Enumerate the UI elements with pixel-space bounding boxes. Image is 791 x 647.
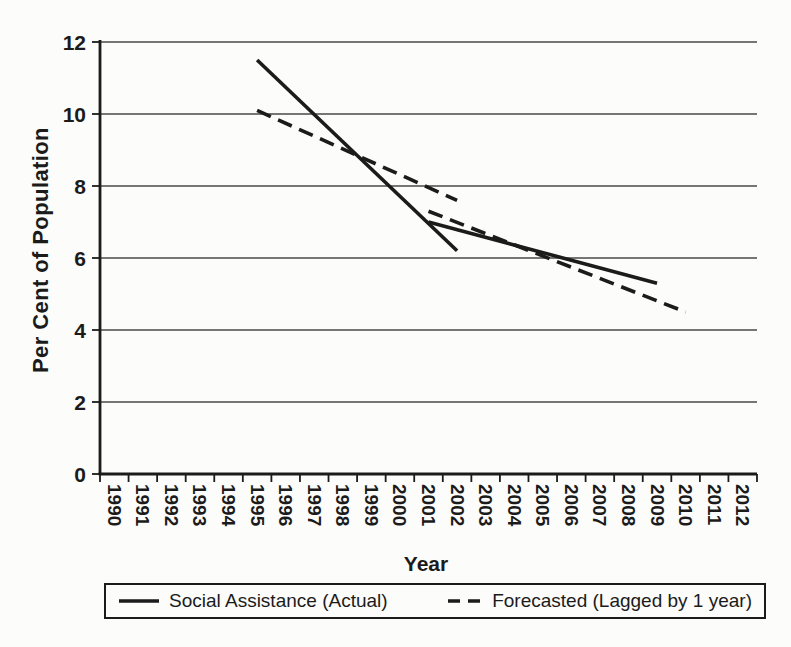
y-tick-label: 12	[63, 31, 86, 54]
x-tick-label: 2010	[675, 484, 696, 526]
x-tick-label: 2003	[475, 484, 496, 526]
y-axis-title: Per Cent of Population	[28, 127, 54, 373]
solid-line-icon	[118, 597, 160, 605]
scanned-line-chart-page: 0246810121990199119921993199419951996199…	[0, 0, 791, 647]
y-tick-label: 8	[74, 175, 86, 198]
x-tick-label: 1994	[218, 484, 239, 527]
x-tick-label: 1995	[247, 484, 268, 527]
legend-item-forecast: Forecasted (Lagged by 1 year)	[447, 590, 752, 612]
legend-item-actual: Social Assistance (Actual)	[118, 590, 388, 612]
y-tick-label: 2	[74, 391, 86, 414]
dashed-line-icon	[447, 597, 483, 605]
x-tick-label: 1997	[304, 484, 325, 526]
x-tick-label: 1998	[332, 484, 353, 526]
chart-legend: Social Assistance (Actual) Forecasted (L…	[104, 583, 766, 619]
x-tick-label: 2002	[447, 484, 468, 526]
legend-label-actual: Social Assistance (Actual)	[169, 590, 388, 612]
x-tick-label: 1991	[132, 484, 153, 527]
series-line-solid	[257, 60, 457, 251]
x-tick-label: 2005	[532, 484, 553, 527]
x-tick-label: 2011	[704, 484, 725, 526]
x-tick-label: 2000	[389, 484, 410, 526]
x-tick-label: 2007	[589, 484, 610, 526]
series-line-dashed	[429, 211, 686, 312]
x-tick-label: 2012	[732, 484, 753, 526]
x-tick-label: 2006	[561, 484, 582, 526]
y-tick-label: 6	[74, 247, 86, 270]
x-tick-label: 1996	[275, 484, 296, 526]
x-axis-title: Year	[404, 552, 448, 576]
legend-label-forecast: Forecasted (Lagged by 1 year)	[492, 590, 752, 612]
y-tick-label: 4	[74, 319, 86, 342]
x-tick-label: 1992	[161, 484, 182, 526]
x-tick-label: 2008	[618, 484, 639, 526]
x-tick-label: 1999	[361, 484, 382, 526]
x-tick-label: 1993	[189, 484, 210, 526]
chart-canvas: 0246810121990199119921993199419951996199…	[0, 0, 791, 647]
y-tick-label: 0	[74, 463, 86, 486]
y-tick-label: 10	[63, 103, 86, 126]
x-tick-label: 2009	[647, 484, 668, 526]
x-tick-label: 2001	[418, 484, 439, 527]
x-tick-label: 2004	[504, 484, 525, 527]
x-tick-label: 1990	[104, 484, 125, 526]
series-line-solid	[429, 222, 658, 283]
